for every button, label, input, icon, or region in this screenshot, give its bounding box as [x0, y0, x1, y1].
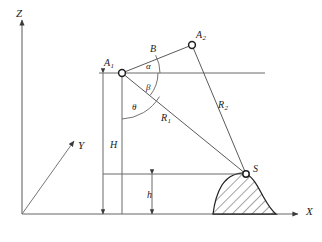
angle-label-alpha: α [146, 62, 151, 71]
point-marker-s[interactable] [243, 171, 249, 177]
point-marker-a2[interactable] [189, 42, 196, 49]
angle-arc-theta [122, 97, 160, 119]
segment-label-r2: R2 [218, 100, 228, 112]
segment-r1-line [122, 73, 246, 174]
angle-label-theta: θ [132, 103, 136, 112]
angle-label-beta: β [146, 83, 150, 92]
geometry-figure: Z Y X A1 A2 S B R1 R2 H h α β θ [0, 0, 322, 242]
axis-label-y: Y [78, 140, 84, 151]
axis-y [22, 141, 74, 214]
point-label-a1: A1 [104, 58, 114, 70]
point-label-a2: A2 [196, 30, 206, 42]
dimension-label-h-lower: h [147, 190, 152, 200]
angle-arc-beta [150, 73, 158, 95]
segment-label-b: B [150, 44, 156, 54]
axis-label-x: X [306, 206, 313, 217]
dimension-h-capital [99, 73, 108, 214]
hatched-hill [213, 173, 276, 214]
point-marker-a1[interactable] [119, 70, 126, 77]
segment-label-r1: R1 [161, 113, 171, 125]
point-label-s: S [253, 164, 258, 174]
dimension-label-h-capital: H [110, 140, 117, 150]
axis-label-z: Z [16, 8, 22, 19]
